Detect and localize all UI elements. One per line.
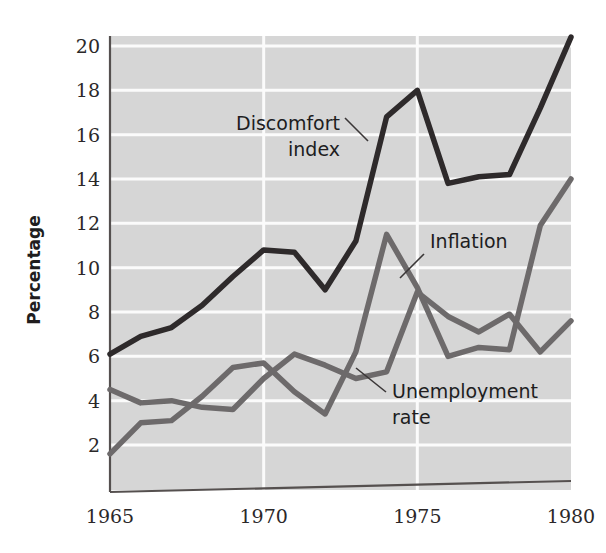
- y-tick-label: 8: [88, 301, 100, 323]
- y-tick-label: 2: [88, 434, 100, 456]
- y-tick-label: 18: [76, 79, 100, 101]
- annotation-label: Unemployment: [392, 380, 538, 402]
- x-tick-label: 1970: [239, 505, 287, 527]
- y-tick-label: 14: [76, 168, 100, 190]
- y-tick-label: 4: [88, 390, 100, 412]
- y-tick-label: 10: [76, 257, 100, 279]
- y-tick-label: 20: [76, 35, 100, 57]
- line-chart: 2018161412108642 1965197019751980 Discom…: [0, 0, 606, 553]
- y-tick-label: 16: [76, 124, 100, 146]
- annotation-label: Inflation: [430, 230, 508, 252]
- x-tick-label: 1975: [393, 505, 441, 527]
- y-axis-title-text: Percentage: [24, 215, 44, 324]
- y-tick-label: 6: [88, 345, 100, 367]
- annotation-label: index: [288, 138, 340, 160]
- figure-container: 2018161412108642 1965197019751980 Discom…: [0, 0, 606, 553]
- annotation-label: rate: [392, 406, 431, 428]
- y-tick-label: 12: [76, 212, 100, 234]
- x-tick-label: 1980: [547, 505, 595, 527]
- annotation-label: Discomfort: [236, 112, 340, 134]
- x-tick-label: 1965: [86, 505, 134, 527]
- y-tick-labels: 2018161412108642: [76, 35, 100, 456]
- x-tick-labels: 1965197019751980: [86, 505, 595, 527]
- y-axis-title: Percentage: [24, 215, 44, 324]
